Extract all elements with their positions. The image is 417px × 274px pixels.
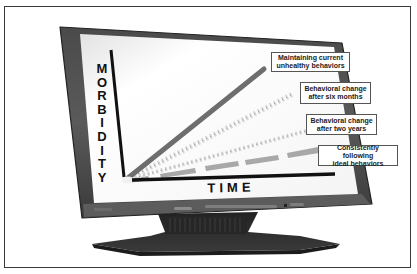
monitor-illustration [0, 0, 417, 274]
monitor-stand [92, 212, 340, 256]
label-line: ideal behaviors [322, 160, 394, 168]
label-change-six-months: Behavioral change after six months [300, 82, 371, 104]
y-label-letter: I [95, 144, 109, 158]
y-label-letter: R [95, 89, 109, 103]
label-line: Maintaining current [276, 54, 344, 62]
label-line: unhealthy behaviors [276, 62, 344, 70]
label-line: after six months [304, 93, 366, 101]
x-axis-label: TIME [196, 179, 266, 195]
label-line: Behavioral change [310, 117, 372, 125]
label-change-two-years: Behavioral change after two years [306, 114, 377, 135]
label-unhealthy-behaviors: Maintaining current unhealthy behaviors [271, 52, 350, 72]
label-line: Behavioral change [304, 85, 366, 93]
y-label-letter: O [95, 76, 109, 90]
y-label-letter: B [95, 103, 109, 117]
y-label-letter: I [95, 116, 109, 130]
y-axis-label: M O R B I D I T Y [95, 62, 109, 184]
label-line: after two years [310, 125, 372, 133]
y-label-letter: D [95, 130, 109, 144]
label-ideal-behaviors: Consistently following ideal behaviors [318, 145, 398, 166]
y-label-letter: T [95, 157, 109, 171]
label-line: Consistently following [322, 144, 394, 160]
y-label-letter: Y [95, 171, 109, 185]
y-label-letter: M [95, 62, 109, 76]
